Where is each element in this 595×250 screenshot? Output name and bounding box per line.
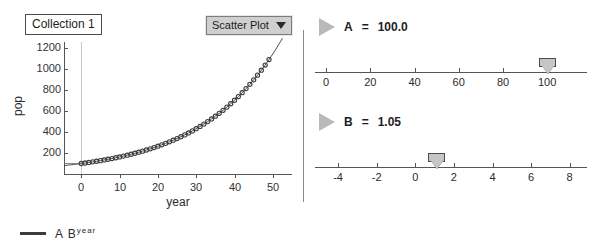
legend-label: A Byear	[55, 226, 96, 241]
slider-tick	[377, 163, 378, 168]
slider-tick	[531, 163, 532, 168]
slider-tick	[415, 163, 416, 168]
slider-tick	[338, 163, 339, 168]
slider-tick-label: 0	[397, 171, 433, 183]
data-point-group	[79, 57, 271, 165]
slider-tick	[415, 68, 416, 73]
slider-tick-label: 20	[352, 76, 388, 88]
slider-b-thumb[interactable]	[428, 153, 445, 162]
slider-b-value[interactable]: 1.05	[378, 115, 401, 129]
slider-b-equals: =	[362, 115, 369, 129]
slider-tick	[493, 163, 494, 168]
scatter-plot-canvas	[0, 0, 304, 250]
slider-a-thumb[interactable]	[539, 58, 556, 67]
play-triangle-icon[interactable]	[319, 18, 335, 36]
legend-exponent: year	[77, 226, 97, 235]
slider-tick-label: 6	[513, 171, 549, 183]
slider-b-axis[interactable]	[315, 167, 587, 168]
slider-tick-label: -4	[320, 171, 356, 183]
slider-a[interactable]: A = 100.0 020406080100	[315, 14, 587, 99]
slider-tick-label: 4	[475, 171, 511, 183]
slider-b-name: B	[344, 115, 353, 129]
slider-b[interactable]: B = 1.05 -4-202468	[315, 109, 587, 194]
slider-tick-label: 8	[552, 171, 588, 183]
slider-tick-label: 2	[436, 171, 472, 183]
chevron-down-icon	[276, 22, 286, 29]
slider-tick	[326, 68, 327, 73]
slider-tick-label: 40	[397, 76, 433, 88]
slider-tick-label: 100	[529, 76, 565, 88]
slider-tick	[454, 163, 455, 168]
legend-line-swatch	[20, 232, 46, 235]
slider-tick-label: -2	[359, 171, 395, 183]
slider-a-equals: =	[362, 20, 369, 34]
slider-tick-label: 80	[485, 76, 521, 88]
slider-tick	[570, 163, 571, 168]
slider-tick-label: 0	[308, 76, 344, 88]
slider-a-name: A	[344, 20, 353, 34]
legend-prefix: A B	[55, 227, 77, 241]
slider-tick	[503, 68, 504, 73]
plot-legend: A Byear	[20, 226, 96, 241]
fit-curve	[64, 38, 282, 165]
slider-b-header: B = 1.05	[319, 113, 401, 131]
slider-tick	[370, 68, 371, 73]
slider-tick	[459, 68, 460, 73]
slider-a-header: A = 100.0	[319, 18, 408, 36]
plot-type-label: Scatter Plot	[212, 18, 269, 32]
play-triangle-icon[interactable]	[319, 113, 335, 131]
plot-type-dropdown[interactable]: Scatter Plot	[206, 16, 292, 35]
slider-tick-label: 60	[441, 76, 477, 88]
slider-a-value[interactable]: 100.0	[378, 20, 408, 34]
collection-title[interactable]: Collection 1	[25, 14, 102, 35]
scatter-plot-panel: Collection 1 Scatter Plot 20040060080010…	[0, 0, 304, 250]
